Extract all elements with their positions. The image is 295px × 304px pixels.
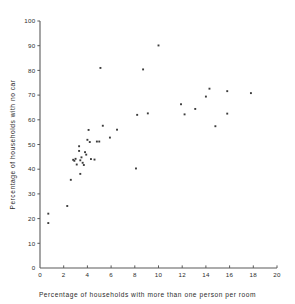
x-tick-label-8: 8 [133,271,137,278]
x-tick-label-16: 16 [226,271,234,278]
y-tick-label-40: 40 [28,165,36,172]
x-tick-label-2: 2 [62,271,66,278]
data-point [73,160,75,162]
data-point [85,154,87,156]
data-point [205,96,207,98]
axis-tick-labels: 010203040506070809010002468101214161820 [24,17,281,278]
x-axis-title: Percentage of households with more than … [39,291,256,299]
data-point [75,158,77,160]
x-tick-label-18: 18 [250,271,258,278]
data-point [226,90,228,92]
data-point [142,68,144,70]
data-point [214,125,216,127]
data-point [99,67,101,69]
data-point [102,125,104,127]
axis-ticks [37,21,277,268]
y-tick-label-60: 60 [28,116,36,123]
data-point [70,179,72,181]
y-tick-label-80: 80 [28,67,36,74]
x-tick-label-10: 10 [155,271,163,278]
scatter-plot-canvas: 010203040506070809010002468101214161820 … [0,0,295,304]
data-point [90,158,92,160]
y-tick-label-50: 50 [28,141,36,148]
data-point [82,162,84,164]
x-tick-label-6: 6 [109,271,113,278]
data-point [180,103,182,105]
data-point [76,164,78,166]
y-tick-label-100: 100 [24,17,35,24]
data-point [78,145,80,147]
y-tick-label-30: 30 [28,190,36,197]
y-tick-label-0: 0 [32,264,36,271]
x-tick-label-0: 0 [38,271,42,278]
data-point [47,222,49,224]
x-tick-label-4: 4 [86,271,90,278]
y-tick-label-10: 10 [28,240,36,247]
data-point [194,108,196,110]
x-tick-label-12: 12 [178,271,186,278]
data-point [136,114,138,116]
data-point [47,213,49,215]
axes [40,21,277,268]
x-tick-label-14: 14 [202,271,210,278]
data-points [47,45,252,225]
data-point [86,139,88,141]
y-tick-label-90: 90 [28,42,36,49]
data-point [78,150,80,152]
data-point [147,112,149,114]
data-point [109,137,111,139]
data-point [84,151,86,153]
data-point [79,173,81,175]
data-point [184,113,186,115]
x-tick-label-20: 20 [273,271,281,278]
data-point [116,129,118,131]
data-point [81,156,83,158]
data-point [98,141,100,143]
data-point [83,164,85,166]
axis-titles: Percentage of households with no carPerc… [9,79,257,299]
data-point [88,129,90,131]
y-tick-label-20: 20 [28,215,36,222]
data-point [250,92,252,94]
scatter-plot-figure: 010203040506070809010002468101214161820 … [0,0,295,304]
data-point [135,168,137,170]
data-point [96,141,98,143]
data-point [94,159,96,161]
data-point [226,113,228,115]
y-axis-title: Percentage of households with no car [9,79,17,209]
y-tick-label-70: 70 [28,91,36,98]
data-point [89,141,91,143]
data-point [209,88,211,90]
data-point [79,159,81,161]
data-point [66,205,68,207]
data-point [158,45,160,47]
